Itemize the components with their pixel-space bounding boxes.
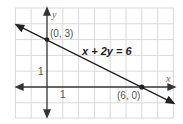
x-unit-label: 1 — [60, 89, 66, 100]
line-arrow-right — [166, 97, 174, 103]
point-label-0-3: (0, 3) — [50, 28, 73, 39]
x-axis-arrow-left — [16, 84, 23, 90]
line-arrow-left — [16, 25, 24, 31]
y-axis-arrow-down — [44, 110, 50, 117]
point-0-3 — [45, 37, 50, 42]
axes — [16, 8, 175, 117]
point-6-0 — [139, 84, 144, 89]
grid — [15, 8, 174, 118]
x-axis-arrow-right — [168, 84, 175, 90]
graph: (0, 3) (6, 0) x + 2y = 6 y x 1 1 — [0, 0, 183, 124]
y-unit-label: 1 — [38, 66, 44, 77]
equation-label: x + 2y = 6 — [81, 45, 132, 57]
point-label-6-0: (6, 0) — [117, 90, 140, 101]
y-axis-arrow-up — [44, 8, 50, 15]
y-axis-label: y — [51, 9, 57, 20]
x-axis-label: x — [165, 73, 171, 84]
equation-line — [16, 25, 174, 104]
